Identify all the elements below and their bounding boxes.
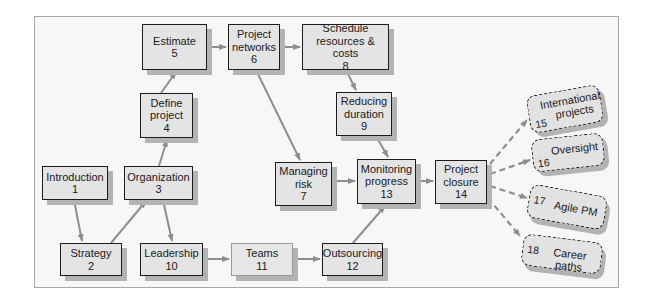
node-teams: Teams 11 xyxy=(231,243,293,276)
node-number: 2 xyxy=(88,260,94,273)
arrow-4-to-5 xyxy=(161,72,176,93)
node-label: Strategy xyxy=(71,247,112,260)
node-schedule-resources-costs: Schedule resources & costs 8 xyxy=(302,24,389,70)
node-reducing-duration: Reducing duration 9 xyxy=(336,92,392,136)
node-define-project: Define project 4 xyxy=(140,93,193,138)
ext-number: 17 xyxy=(533,193,547,207)
node-project-networks: Project networks 6 xyxy=(228,24,280,70)
arrow-14-to-18 xyxy=(488,198,520,236)
arrow-1-to-2 xyxy=(74,200,82,241)
node-number: 9 xyxy=(361,120,367,133)
arrow-6-to-7 xyxy=(256,70,300,160)
node-introduction: Introduction 1 xyxy=(42,166,108,200)
node-number: 13 xyxy=(380,188,392,201)
node-label: Managing xyxy=(279,165,327,178)
node-label: Define xyxy=(151,97,183,110)
node-number: 8 xyxy=(342,60,348,73)
node-number: 11 xyxy=(256,260,267,273)
node-monitoring-progress: Monitoring progress 13 xyxy=(357,159,416,204)
node-outsourcing: Outsourcing 12 xyxy=(322,243,383,276)
node-managing-risk: Managing risk 7 xyxy=(275,162,332,206)
node-label-line2: networks xyxy=(232,41,276,54)
arrow-14-to-16 xyxy=(490,160,530,174)
node-number: 6 xyxy=(251,53,257,66)
node-label-line2: duration xyxy=(344,108,384,121)
arrow-2-to-3 xyxy=(111,201,146,243)
arrow-3-to-4 xyxy=(159,140,167,166)
node-label-line2: risk xyxy=(295,178,312,191)
node-label-line2: closure xyxy=(443,176,478,189)
node-leadership: Leadership 10 xyxy=(140,243,203,276)
node-label-line2: project xyxy=(150,109,183,122)
node-label: Organization xyxy=(127,171,189,184)
node-label: Teams xyxy=(246,247,278,260)
node-number: 1 xyxy=(72,183,78,196)
node-number: 7 xyxy=(300,190,306,203)
ext-number: 15 xyxy=(534,116,548,130)
node-label: Monitoring xyxy=(361,163,412,176)
node-number: 12 xyxy=(346,260,358,273)
node-number: 4 xyxy=(163,122,169,135)
node-number: 5 xyxy=(171,47,177,60)
node-number: 10 xyxy=(165,260,177,273)
arrow-14-to-15 xyxy=(490,120,527,164)
node-project-closure: Project closure 14 xyxy=(435,160,487,204)
node-estimate: Estimate 5 xyxy=(142,24,207,70)
node-label-line2: progress xyxy=(365,175,408,188)
ext-label: Agile PM xyxy=(548,198,603,219)
node-label: Leadership xyxy=(144,247,198,260)
node-label: Reducing xyxy=(341,95,387,108)
ext-number: 18 xyxy=(527,243,540,256)
node-organization: Organization 3 xyxy=(124,166,193,200)
arrow-3-to-10 xyxy=(163,200,172,241)
arrow-8-to-9 xyxy=(346,70,356,90)
node-number: 14 xyxy=(455,188,467,201)
arrow-9-to-13 xyxy=(376,136,388,157)
arrow-14-to-17 xyxy=(490,186,527,198)
arrow-12-to-13 xyxy=(353,206,385,243)
node-label: Estimate xyxy=(153,35,196,48)
node-label: Introduction xyxy=(46,171,103,184)
node-label: Outsourcing xyxy=(323,247,382,260)
ext-label: Oversight xyxy=(546,139,603,157)
node-label: Project xyxy=(237,28,271,41)
node-number: 3 xyxy=(155,183,161,196)
node-label: Schedule xyxy=(323,22,369,35)
node-label: Project xyxy=(444,163,478,176)
ext-number: 16 xyxy=(537,156,550,169)
node-strategy: Strategy 2 xyxy=(60,243,122,276)
node-label-line2: resources & costs xyxy=(303,35,388,60)
